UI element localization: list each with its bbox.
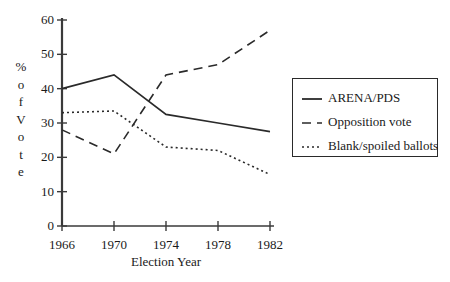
legend-label: ARENA/PDS xyxy=(328,91,400,104)
legend-label: Blank/spoiled ballots xyxy=(328,139,438,152)
series-line-dashed xyxy=(62,30,270,154)
y-tick-label: 30 xyxy=(28,116,54,129)
y-tick-label: 60 xyxy=(28,13,54,26)
x-axis-label: Election Year xyxy=(96,254,236,270)
legend-item[interactable]: Opposition vote xyxy=(301,112,411,130)
legend-item[interactable]: Blank/spoiled ballots xyxy=(301,136,438,154)
x-tick-label: 1970 xyxy=(92,238,136,251)
series-line-solid xyxy=(62,75,270,132)
legend-swatch-dashed xyxy=(301,115,323,127)
series-line-dotted xyxy=(62,111,270,175)
legend: ARENA/PDSOpposition voteBlank/spoiled ba… xyxy=(292,78,438,157)
legend-item[interactable]: ARENA/PDS xyxy=(301,88,400,106)
y-tick-label: 10 xyxy=(28,185,54,198)
y-axis-label-char: f xyxy=(10,93,32,111)
y-tick-label: 0 xyxy=(28,219,54,232)
y-tick-label: 40 xyxy=(28,82,54,95)
y-axis-label-char: e xyxy=(10,163,32,181)
legend-swatch-solid xyxy=(301,91,323,103)
x-tick-label: 1966 xyxy=(40,238,84,251)
line-chart: %ofVote 0102030405060 196619701974197819… xyxy=(0,0,450,282)
legend-label: Opposition vote xyxy=(328,115,411,128)
x-tick-label: 1982 xyxy=(248,238,292,251)
y-tick-label: 20 xyxy=(28,150,54,163)
x-tick-label: 1974 xyxy=(144,238,188,251)
y-axis-label-char: o xyxy=(10,128,32,146)
y-axis-label-char: % xyxy=(10,58,32,76)
x-tick-label: 1978 xyxy=(196,238,240,251)
y-tick-label: 50 xyxy=(28,47,54,60)
legend-swatch-dotted xyxy=(301,139,323,151)
